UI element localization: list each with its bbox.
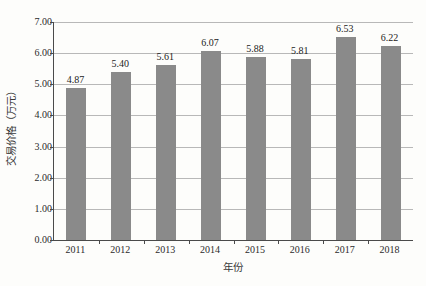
y-axis-tick-mark [50,209,54,210]
gridline [54,84,413,85]
bar [336,37,356,240]
bar-chart-figure: 交易价格（万元） 0.001.002.003.004.005.006.007.0… [0,0,426,286]
x-axis-tick-label: 2018 [365,244,415,255]
bar-value-label: 5.61 [140,51,190,62]
x-axis-tick-label: 2016 [275,244,325,255]
bar-value-label: 5.88 [230,43,280,54]
y-axis-tick-mark [50,240,54,241]
bar [201,51,221,240]
x-axis-tick-label: 2015 [230,244,280,255]
x-axis-tick-label: 2017 [320,244,370,255]
y-axis-title: 交易价格（万元） [0,0,20,250]
gridline [54,209,413,210]
y-axis-tick-mark [50,22,54,23]
y-axis-tick-label: 4.00 [18,110,52,120]
y-axis-tick-label: 3.00 [18,142,52,152]
bar-value-label: 5.81 [275,45,325,56]
bar-value-label: 6.53 [320,23,370,34]
x-axis-tick-label: 2011 [50,244,100,255]
bar-value-label: 4.87 [50,74,100,85]
bar [156,65,176,240]
gridline [54,115,413,116]
bar-value-label: 6.22 [365,32,415,43]
y-axis-tick-label: 1.00 [18,204,52,214]
y-axis-tick-label: 2.00 [18,173,52,183]
bar [246,57,266,240]
bar-value-label: 6.07 [185,37,235,48]
y-axis-tick-label: 6.00 [18,48,52,58]
y-axis-tick-mark [50,178,54,179]
y-axis-tick-mark [50,147,54,148]
y-axis-tick-labels: 0.001.002.003.004.005.006.007.00 [18,0,52,286]
x-axis-title: 年份 [53,259,412,274]
bar [111,72,131,240]
x-axis-tick-label: 2013 [140,244,190,255]
y-axis-tick-mark [50,53,54,54]
plot-area [53,22,413,241]
y-axis-tick-label: 7.00 [18,17,52,27]
y-axis-tick-label: 5.00 [18,79,52,89]
gridline [54,147,413,148]
y-axis-tick-label: 0.00 [18,235,52,245]
bar [66,88,86,240]
x-axis-tick-label: 2012 [95,244,145,255]
y-axis-tick-mark [50,115,54,116]
bar [291,59,311,240]
gridline [54,178,413,179]
bar-value-label: 5.40 [95,58,145,69]
bar [381,46,401,240]
x-axis-tick-label: 2014 [185,244,235,255]
y-axis-title-label: 交易价格（万元） [3,85,18,165]
